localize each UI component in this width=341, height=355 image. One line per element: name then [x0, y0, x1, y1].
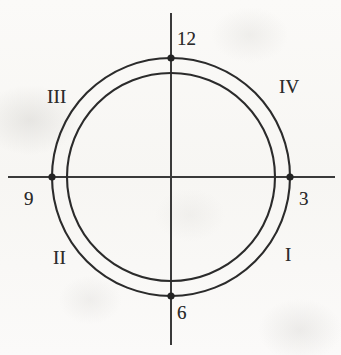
- quadrant-label-ii: II: [53, 248, 66, 267]
- quadrant-label-i: I: [285, 245, 292, 264]
- clock-label-6: 6: [177, 303, 187, 322]
- quadrant-label-iv: IV: [279, 77, 299, 96]
- quadrant-label-iii: III: [47, 87, 67, 106]
- marker-9-dot: [48, 173, 55, 180]
- figure-root: 12 3 6 9 IV III II I: [0, 0, 341, 355]
- marker-3-dot: [286, 173, 293, 180]
- clock-label-9: 9: [24, 189, 34, 208]
- clock-label-12: 12: [177, 29, 196, 48]
- clock-diagram-svg: [0, 0, 341, 355]
- clock-label-3: 3: [299, 189, 309, 208]
- marker-12-dot: [167, 54, 174, 61]
- marker-6-dot: [167, 292, 174, 299]
